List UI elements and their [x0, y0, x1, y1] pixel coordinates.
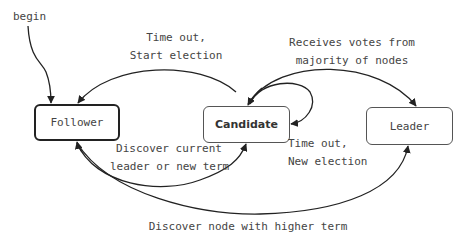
label-line: Time out, — [288, 135, 358, 153]
node-candidate-label: Candidate — [215, 118, 278, 131]
edge-begin-to-follower — [28, 26, 51, 103]
node-leader-label: Leader — [390, 120, 430, 133]
node-leader: Leader — [366, 107, 453, 145]
label-line: Discover current — [110, 140, 228, 158]
label-line: Receives votes from — [287, 34, 417, 52]
label-discover-higher-term: Discover node with higher term — [148, 218, 348, 236]
label-line: leader or new term — [110, 158, 228, 176]
node-follower-label: Follower — [51, 116, 104, 129]
label-line: New election — [288, 153, 358, 171]
edge-candidate-to-follower-timeout — [78, 70, 236, 103]
label-timeout-new-election: Time out, New election — [288, 135, 358, 171]
label-line: majority of nodes — [287, 52, 417, 70]
label-line: Start election — [120, 47, 232, 65]
node-candidate: Candidate — [203, 106, 290, 143]
label-line: Time out, — [120, 29, 232, 47]
raft-state-diagram: Follower Candidate Leader begin Time out… — [0, 0, 470, 241]
edge-candidate-to-leader-votes — [248, 69, 416, 106]
label-timeout-start-election: Time out, Start election — [120, 29, 232, 65]
label-begin: begin — [13, 8, 46, 26]
node-follower: Follower — [34, 104, 120, 141]
label-receives-votes: Receives votes from majority of nodes — [287, 34, 417, 70]
label-discover-current-leader: Discover current leader or new term — [110, 140, 228, 176]
